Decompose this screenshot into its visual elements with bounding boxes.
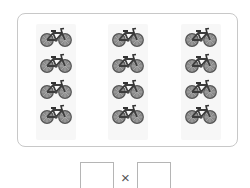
- bicycle-icon: [184, 104, 218, 124]
- bicycle-icon: [111, 27, 145, 47]
- bicycle-icon: [111, 104, 145, 124]
- bicycle-icon: [184, 79, 218, 99]
- bicycle-group-3: [181, 24, 221, 140]
- answer-box-left[interactable]: [80, 162, 114, 188]
- bicycle-icon: [111, 53, 145, 73]
- bicycle-icon: [184, 27, 218, 47]
- bicycle-icon: [39, 53, 73, 73]
- multiplication-answer: ×: [80, 162, 171, 188]
- bicycle-group-2: [108, 24, 148, 140]
- bicycle-icon: [39, 79, 73, 99]
- illustration-frame: [17, 13, 238, 147]
- bicycle-icon: [39, 27, 73, 47]
- answer-box-right[interactable]: [137, 162, 171, 188]
- bicycle-group-1: [36, 24, 76, 140]
- bicycle-icon: [111, 79, 145, 99]
- bicycle-icon: [184, 53, 218, 73]
- times-sign: ×: [114, 169, 137, 188]
- bicycle-icon: [39, 104, 73, 124]
